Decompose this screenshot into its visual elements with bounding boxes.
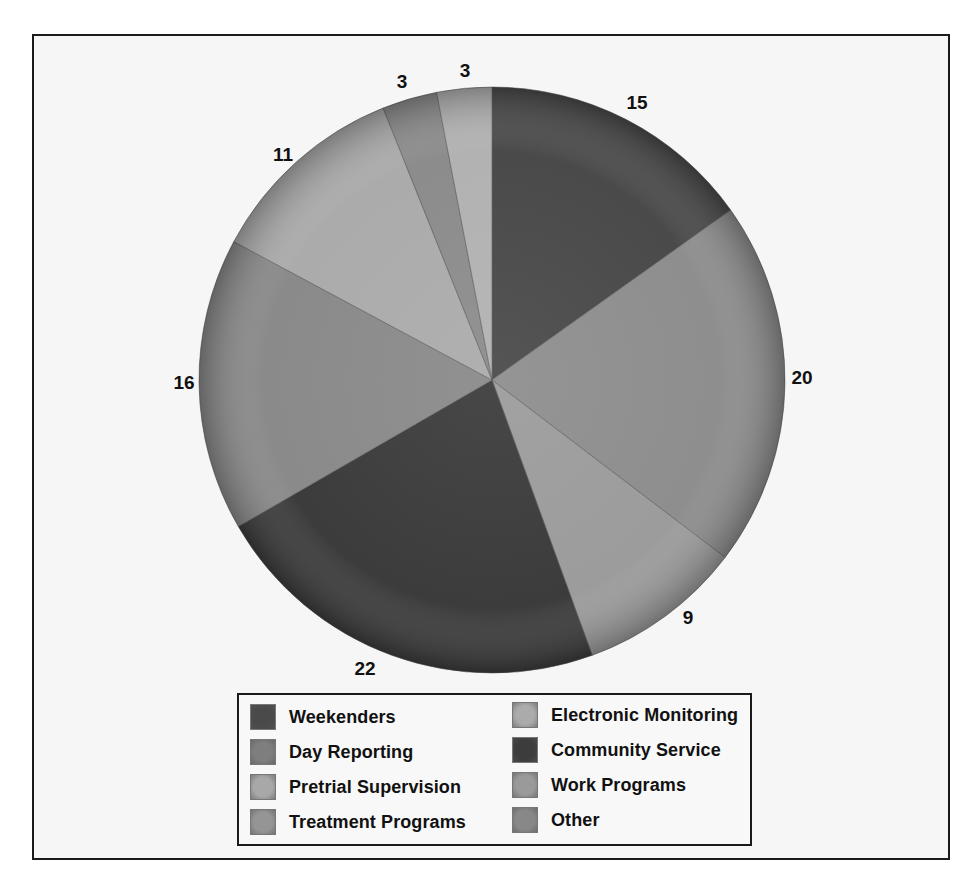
legend-swatch [512, 807, 538, 833]
legend-swatch [512, 702, 538, 728]
pie-shading [199, 87, 785, 673]
legend-swatch [250, 774, 276, 800]
slice-label-other: 3 [460, 60, 471, 82]
slice-label-pretrial-supervision: 9 [683, 607, 694, 629]
legend-label: Pretrial Supervision [289, 777, 461, 798]
legend-label: Community Service [551, 740, 721, 761]
legend-swatch [250, 809, 276, 835]
legend-item-treatment-programs: Treatment Programs [250, 807, 466, 837]
slice-label-treatment-programs: 16 [173, 372, 194, 394]
legend-item-work-programs: Work Programs [512, 770, 686, 800]
slice-label-day-reporting: 20 [791, 367, 812, 389]
legend-swatch [512, 737, 538, 763]
legend-label: Treatment Programs [289, 812, 466, 833]
legend-label: Other [551, 810, 600, 831]
legend-label: Day Reporting [289, 742, 413, 763]
legend-swatch [512, 772, 538, 798]
legend-item-electronic-monitoring: Electronic Monitoring [512, 700, 738, 730]
legend-swatch [250, 704, 276, 730]
legend-swatch [250, 739, 276, 765]
legend-item-day-reporting: Day Reporting [250, 737, 413, 767]
legend-label: Weekenders [289, 707, 396, 728]
legend-item-pretrial-supervision: Pretrial Supervision [250, 772, 461, 802]
slice-label-community-service: 22 [354, 658, 375, 680]
slice-label-electronic-monitoring: 11 [273, 144, 293, 166]
slice-label-work-programs: 3 [397, 71, 408, 93]
legend-item-community-service: Community Service [512, 735, 721, 765]
legend-label: Work Programs [551, 775, 686, 796]
legend-item-other: Other [512, 805, 600, 835]
legend-item-weekenders: Weekenders [250, 702, 396, 732]
legend-label: Electronic Monitoring [551, 705, 738, 726]
chart-legend: Weekenders Day Reporting Pretrial Superv… [237, 693, 752, 846]
slice-label-weekenders: 15 [626, 92, 647, 114]
